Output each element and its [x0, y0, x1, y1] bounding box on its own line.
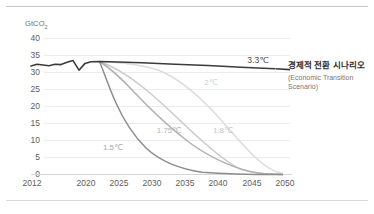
label-3-3c: 3.3℃: [247, 56, 268, 65]
label-1-5c: 1.5℃: [103, 144, 123, 152]
legend-title: 경제적 전환 시나리오: [288, 60, 374, 71]
label-1-8c: 1.8℃: [213, 127, 233, 135]
x-tick-2035: 2035: [176, 179, 195, 188]
x-tick-2040: 2040: [209, 179, 228, 188]
legend-subtitle: (Economic Transition Scenario): [288, 73, 374, 92]
x-tick-2020: 2020: [77, 179, 96, 188]
x-tick-2050: 2050: [276, 179, 295, 188]
x-tick-2025: 2025: [110, 179, 129, 188]
legend-subtitle-line1: (Economic Transition: [288, 73, 374, 82]
legend-subtitle-line2: Scenario): [288, 82, 374, 91]
x-tick-2045: 2045: [243, 179, 262, 188]
label-1-75c: 1.75℃: [157, 127, 182, 135]
x-tick-2012: 2012: [23, 179, 42, 188]
curve-2c: [100, 62, 284, 174]
emissions-scenario-chart: GtCO2 40 35 30 25 20 15 10 5 0 3.3℃: [0, 0, 374, 214]
legend: 경제적 전환 시나리오 (Economic Transition Scenari…: [288, 60, 374, 92]
label-2c: 2℃: [204, 79, 217, 87]
x-tick-2030: 2030: [143, 179, 162, 188]
